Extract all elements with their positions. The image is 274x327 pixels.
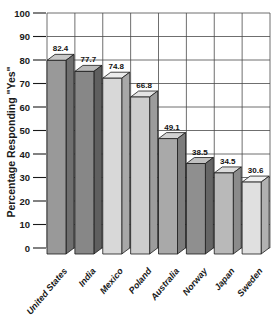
bar-value-label-india: 77.7: [81, 55, 97, 64]
bar-front-norway: [186, 164, 205, 254]
y-tick-label-40: 40: [0, 149, 30, 160]
bar-value-label-norway: 38.5: [192, 148, 208, 157]
bar-chart-figure: Percentage Responding "Yes" 82.477.774.8…: [0, 0, 274, 327]
bar-front-united-states: [47, 60, 66, 254]
y-tick-label-90: 90: [0, 31, 30, 42]
bar-front-australia: [159, 139, 178, 254]
y-tick-label-50: 50: [0, 125, 30, 136]
bar-side-poland: [150, 91, 158, 254]
y-tick-label-20: 20: [0, 196, 30, 207]
bar-side-australia: [178, 133, 186, 254]
bar-front-sweden: [242, 182, 261, 254]
bar-value-label-sweden: 30.6: [248, 166, 264, 175]
bar-value-label-united-states: 82.4: [53, 44, 69, 53]
y-tick-label-70: 70: [0, 78, 30, 89]
bar-side-mexico: [122, 72, 130, 254]
bar-side-india: [94, 65, 102, 254]
y-tick-label-0: 0: [0, 243, 30, 254]
y-tick-label-100: 100: [0, 8, 30, 19]
bar-value-label-japan: 34.5: [220, 157, 236, 166]
bar-side-japan: [233, 167, 241, 254]
bar-value-label-australia: 49.1: [164, 123, 180, 132]
bar-front-india: [75, 71, 94, 254]
bar-side-norway: [205, 158, 213, 254]
bar-value-label-poland: 66.8: [136, 81, 152, 90]
y-tick-label-80: 80: [0, 55, 30, 66]
y-tick-label-30: 30: [0, 172, 30, 183]
bar-front-poland: [131, 97, 150, 254]
bar-front-japan: [214, 173, 233, 254]
bar-side-united-states: [66, 54, 74, 254]
bar-front-mexico: [103, 78, 122, 254]
y-tick-label-60: 60: [0, 102, 30, 113]
bar-value-label-mexico: 74.8: [108, 62, 124, 71]
bar-side-sweden: [261, 176, 269, 254]
y-tick-label-10: 10: [0, 219, 30, 230]
